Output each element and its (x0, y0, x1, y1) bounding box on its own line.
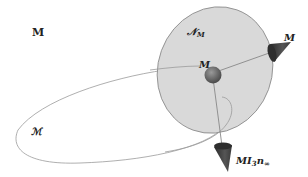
label-center: M (198, 59, 211, 70)
diagram-canvas: M ℳ 𝒩M M M MI3n∞ (0, 0, 308, 177)
cone-bottom-icon (214, 143, 232, 173)
label-top-left: M (32, 26, 44, 39)
label-cone-bottom: MI3n∞ (235, 155, 270, 168)
label-loop: ℳ (31, 126, 44, 137)
label-cone-right: M (283, 32, 296, 43)
